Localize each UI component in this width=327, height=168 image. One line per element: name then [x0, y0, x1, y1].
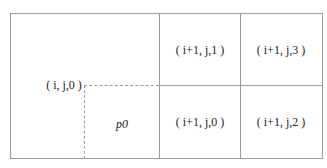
cell-bottom-right-label: ( i+1, j,2 ): [257, 115, 305, 130]
cell-top-right-label: ( i+1, j,3 ): [257, 43, 305, 58]
grid-left-divider: [159, 13, 160, 159]
grid-middle-divider: [240, 13, 241, 159]
outer-bottom-border: [10, 158, 323, 159]
origin-label: ( i, j,0 ): [46, 78, 82, 93]
outer-left-border: [10, 13, 11, 159]
cell-bottom-left-label: ( i+1, j,0 ): [176, 115, 224, 130]
outer-right-border: [322, 13, 323, 159]
cell-top-left-label: ( i+1, j,1 ): [176, 43, 224, 58]
grid-horizontal-divider: [159, 85, 323, 86]
subregion-dashed-left: [84, 85, 85, 159]
subregion-label: p0: [116, 117, 128, 132]
outer-top-border: [10, 13, 323, 14]
subregion-dashed-top: [84, 85, 159, 86]
